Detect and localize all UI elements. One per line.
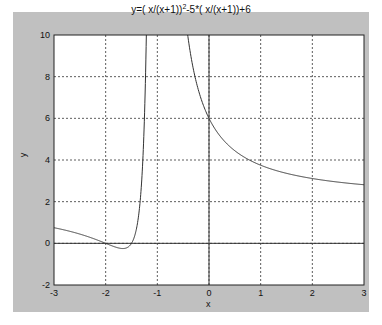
y-tick-label: 10 [40, 30, 50, 40]
x-tick-label: 1 [258, 288, 263, 298]
x-tick-label: 3 [361, 288, 366, 298]
y-tick-label: 0 [45, 238, 50, 248]
y-axis-label: y [18, 153, 28, 158]
plot-area: -3-2-10123-20246810 [0, 0, 382, 325]
x-tick-label: 0 [206, 288, 211, 298]
x-tick-label: -3 [50, 288, 58, 298]
x-tick-label: -2 [102, 288, 110, 298]
x-axis-label: x [206, 299, 211, 309]
y-tick-label: 6 [45, 113, 50, 123]
y-tick-label: 4 [45, 155, 50, 165]
y-tick-label: -2 [42, 280, 50, 290]
y-tick-label: 8 [45, 72, 50, 82]
x-tick-label: 2 [310, 288, 315, 298]
y-tick-label: 2 [45, 197, 50, 207]
x-tick-label: -1 [153, 288, 161, 298]
